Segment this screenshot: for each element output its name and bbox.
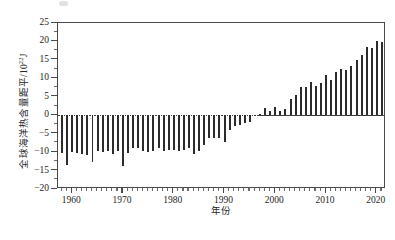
- bar: [65, 115, 69, 165]
- x-tick-minor: [198, 188, 199, 191]
- x-tick-minor: [365, 188, 366, 191]
- y-tick-label: −20: [9, 183, 49, 193]
- x-tick-label: 2020: [351, 195, 395, 206]
- bar: [294, 95, 298, 116]
- bar: [151, 115, 155, 150]
- x-tick-minor: [269, 188, 270, 191]
- x-tick-minor: [218, 188, 219, 191]
- bar: [248, 115, 252, 122]
- bar: [162, 115, 166, 151]
- bar: [319, 83, 323, 115]
- x-tick-minor: [254, 188, 255, 191]
- y-tick-label: 0: [9, 109, 49, 119]
- x-tick-label: 1990: [199, 195, 249, 206]
- bar: [365, 47, 369, 116]
- x-tick-minor: [355, 188, 356, 191]
- x-tick-label: 2000: [249, 195, 299, 206]
- bar: [324, 75, 328, 116]
- x-tick-minor: [304, 188, 305, 191]
- x-tick-minor: [142, 188, 143, 191]
- x-tick-minor: [101, 188, 102, 191]
- bar: [106, 115, 110, 151]
- x-tick-minor: [330, 188, 331, 191]
- x-tick-minor: [335, 188, 336, 191]
- x-tick-minor: [86, 188, 87, 191]
- bar: [136, 115, 140, 147]
- x-tick-minor: [76, 188, 77, 191]
- x-tick-minor: [314, 188, 315, 191]
- bar: [299, 87, 303, 115]
- x-tick-minor: [157, 188, 158, 191]
- y-tick-label: 20: [9, 35, 49, 45]
- bar: [233, 115, 237, 126]
- bar: [212, 115, 216, 138]
- bar: [344, 70, 348, 115]
- x-tick-minor: [350, 188, 351, 191]
- bar: [111, 115, 115, 154]
- bar: [375, 41, 379, 116]
- x-tick-minor: [96, 188, 97, 191]
- bar: [207, 115, 211, 138]
- y-tick-label: 5: [9, 91, 49, 101]
- x-tick-minor: [213, 188, 214, 191]
- bar: [172, 115, 176, 150]
- x-tick-minor: [284, 188, 285, 191]
- bar: [167, 115, 171, 149]
- x-tick-minor: [238, 188, 239, 191]
- x-tick-minor: [264, 188, 265, 191]
- x-tick-minor: [116, 188, 117, 191]
- bar: [329, 80, 333, 115]
- bar: [70, 115, 74, 152]
- bar: [217, 115, 221, 138]
- x-tick-minor: [137, 188, 138, 191]
- bar: [268, 111, 272, 115]
- x-tick-minor: [147, 188, 148, 191]
- bar: [273, 107, 277, 115]
- bar: [334, 72, 338, 115]
- bar: [157, 115, 161, 147]
- x-tick-label: 1970: [97, 195, 147, 206]
- x-tick-major: [274, 188, 275, 193]
- x-tick-minor: [182, 188, 183, 191]
- bar: [75, 115, 79, 153]
- bar: [380, 42, 384, 115]
- bar: [309, 82, 313, 115]
- bar: [197, 115, 201, 150]
- y-tick-label: −15: [9, 165, 49, 175]
- x-tick-minor: [370, 188, 371, 191]
- x-tick-minor: [345, 188, 346, 191]
- bar: [223, 115, 227, 142]
- x-tick-major: [172, 188, 173, 193]
- x-tick-minor: [279, 188, 280, 191]
- x-tick-label: 2010: [300, 195, 350, 206]
- y-tick-label: 15: [9, 54, 49, 64]
- x-tick-minor: [162, 188, 163, 191]
- x-tick-minor: [248, 188, 249, 191]
- x-tick-major: [375, 188, 376, 193]
- bar: [360, 55, 364, 115]
- bar: [355, 60, 359, 116]
- plot-area: [57, 22, 385, 188]
- x-tick-minor: [233, 188, 234, 191]
- x-tick-minor: [299, 188, 300, 191]
- bar: [314, 86, 318, 115]
- bar: [187, 115, 191, 147]
- bar: [278, 111, 282, 115]
- x-tick-minor: [259, 188, 260, 191]
- bar: [60, 115, 64, 153]
- x-tick-minor: [208, 188, 209, 191]
- x-tick-minor: [360, 188, 361, 191]
- y-tick-label: −10: [9, 146, 49, 156]
- x-tick-minor: [289, 188, 290, 191]
- x-tick-label: 1980: [148, 195, 198, 206]
- bar: [177, 115, 181, 151]
- x-tick-minor: [380, 188, 381, 191]
- x-tick-minor: [152, 188, 153, 191]
- bar: [243, 115, 247, 123]
- bar: [263, 108, 267, 115]
- bar: [85, 115, 89, 154]
- x-tick-minor: [81, 188, 82, 191]
- x-tick-minor: [294, 188, 295, 191]
- bar: [349, 66, 353, 115]
- x-tick-minor: [127, 188, 128, 191]
